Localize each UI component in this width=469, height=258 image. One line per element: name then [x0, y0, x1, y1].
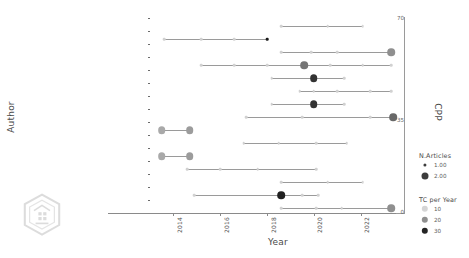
data-point: [301, 194, 304, 197]
data-point: [280, 207, 283, 210]
x-tick-label: 2018: [270, 217, 277, 233]
data-point: [317, 194, 320, 197]
data-point: [193, 194, 196, 197]
data-point: [343, 77, 346, 80]
legend-item-label: 10: [434, 206, 441, 212]
data-point: [301, 116, 304, 119]
x-axis-line: [108, 213, 400, 214]
timeline-line: [281, 182, 363, 183]
plot-area: [150, 8, 398, 212]
data-point: [301, 61, 309, 69]
data-point: [280, 25, 283, 28]
timeline-line: [272, 78, 345, 79]
legend-title: TC per Year: [419, 196, 457, 204]
data-point: [310, 74, 318, 82]
x-tick-mark: [314, 213, 315, 216]
legend-swatch: [422, 228, 428, 234]
data-point: [219, 168, 222, 171]
x-tick-label: 2014: [176, 217, 183, 233]
data-point: [186, 126, 194, 134]
data-point: [327, 25, 330, 28]
data-point: [280, 51, 283, 54]
data-point: [387, 48, 395, 56]
data-point: [256, 168, 259, 171]
data-point: [158, 126, 166, 134]
x-tick-mark: [173, 213, 174, 216]
data-point: [186, 168, 189, 171]
secondary-y-axis-line: [404, 17, 405, 213]
data-point: [298, 90, 301, 93]
data-point: [390, 90, 393, 93]
data-point: [329, 64, 332, 67]
timeline-line: [281, 26, 363, 27]
data-point: [245, 116, 248, 119]
data-point: [341, 207, 344, 210]
data-point: [158, 152, 166, 160]
data-point: [233, 64, 236, 67]
data-point: [270, 103, 273, 106]
x-tick-mark: [267, 213, 268, 216]
data-point: [362, 64, 365, 67]
x-tick-label: 2016: [223, 217, 230, 233]
data-point: [270, 77, 273, 80]
data-point: [280, 181, 283, 184]
data-point: [310, 100, 318, 108]
cpp-tick-label: 35: [390, 117, 404, 123]
timeline-line: [244, 143, 347, 144]
data-point: [343, 103, 346, 106]
data-point: [266, 38, 269, 41]
data-point: [200, 38, 203, 41]
data-point: [345, 142, 348, 145]
bibliometrix-logo-icon: [22, 193, 62, 237]
legend-item-label: 2.00: [434, 173, 446, 179]
data-point: [163, 38, 166, 41]
legend-item-label: 20: [434, 217, 441, 223]
data-point: [362, 181, 365, 184]
legend-swatch: [422, 217, 428, 223]
data-point: [312, 90, 315, 93]
data-point: [310, 51, 313, 54]
data-point: [315, 142, 318, 145]
cpp-tick-label: 70: [390, 15, 404, 21]
timeline-line: [164, 39, 267, 40]
data-point: [327, 181, 330, 184]
x-axis-title: Year: [268, 237, 288, 247]
x-tick-label: 2020: [316, 217, 323, 233]
data-point: [277, 191, 285, 199]
x-tick-label: 2022: [363, 217, 370, 233]
timeline-line: [272, 104, 345, 105]
timeline-line: [281, 208, 391, 209]
data-point: [200, 64, 203, 67]
x-tick-mark: [361, 213, 362, 216]
data-point: [369, 90, 372, 93]
data-point: [242, 142, 245, 145]
author-production-over-time-chart: COTTYN JKOSSEK EEPORTIOLI-STAUDACHER AHE…: [0, 0, 469, 258]
data-point: [233, 38, 236, 41]
data-point: [336, 90, 339, 93]
legend-item-label: 30: [434, 228, 441, 234]
legend-item-label: 1.00: [434, 162, 446, 168]
data-point: [277, 142, 280, 145]
data-point: [315, 168, 318, 171]
data-point: [336, 51, 339, 54]
data-point: [362, 25, 365, 28]
cpp-tick-label: 0: [390, 209, 404, 215]
data-point: [369, 116, 372, 119]
legend-title: N.Articles: [419, 152, 451, 160]
data-point: [186, 152, 194, 160]
data-point: [390, 64, 393, 67]
data-point: [315, 207, 318, 210]
legend-swatch: [422, 173, 429, 180]
data-point: [266, 64, 269, 67]
x-tick-mark: [220, 213, 221, 216]
timeline-line: [187, 169, 316, 170]
